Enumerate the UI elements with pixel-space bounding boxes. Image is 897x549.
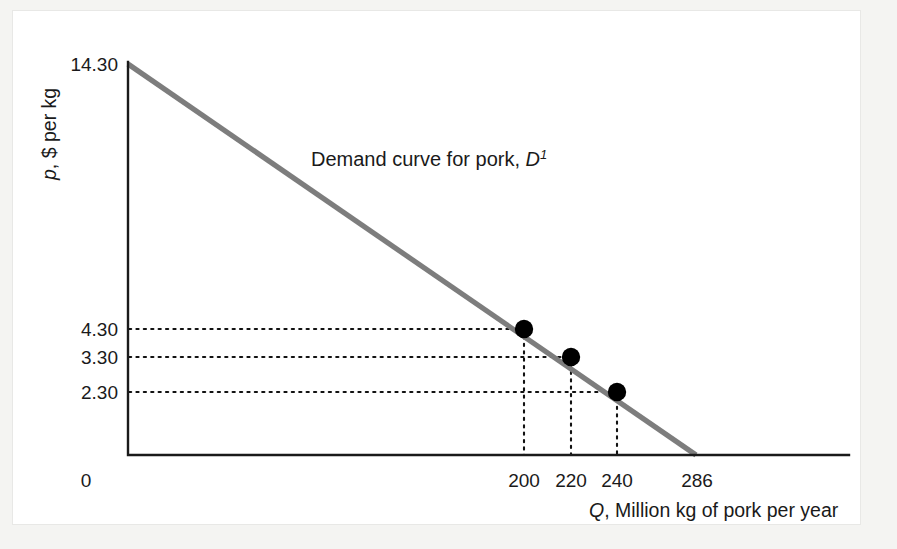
y-axis-title-symbol: p (38, 169, 60, 181)
data-point-200 (515, 320, 533, 338)
y-tick-label-230: 2.30 (81, 382, 118, 403)
y-tick-label-1430: 14.30 (70, 54, 118, 75)
x-tick-label-200: 200 (508, 470, 540, 491)
figure-page: 14.30 4.30 3.30 2.30 0 200 220 240 286 D… (0, 0, 897, 549)
x-axis-title-symbol: Q (589, 499, 604, 521)
demand-curve-label-superscript: 1 (540, 147, 547, 162)
chart-axes (128, 62, 849, 455)
x-tick-label-220: 220 (555, 470, 587, 491)
x-axis-title: Q, Million kg of pork per year (589, 499, 839, 521)
demand-curve-chart: 14.30 4.30 3.30 2.30 0 200 220 240 286 D… (0, 0, 897, 549)
demand-curve-label-symbol: D (526, 148, 540, 170)
y-axis-title-rest: , $ per kg (38, 88, 60, 169)
y-tick-label-330: 3.30 (81, 347, 118, 368)
demand-curve-label-text: Demand curve for pork, (311, 148, 526, 170)
data-point-240 (608, 383, 626, 401)
data-point-220 (562, 348, 580, 366)
y-tick-label-430: 4.30 (81, 319, 118, 340)
x-axis-title-rest: , Million kg of pork per year (604, 499, 839, 521)
x-tick-label-240: 240 (601, 470, 633, 491)
y-axis-title: p, $ per kg (38, 88, 60, 181)
x-tick-label-286: 286 (681, 470, 713, 491)
origin-label: 0 (81, 470, 92, 491)
demand-curve-label: Demand curve for pork, D1 (311, 147, 547, 170)
